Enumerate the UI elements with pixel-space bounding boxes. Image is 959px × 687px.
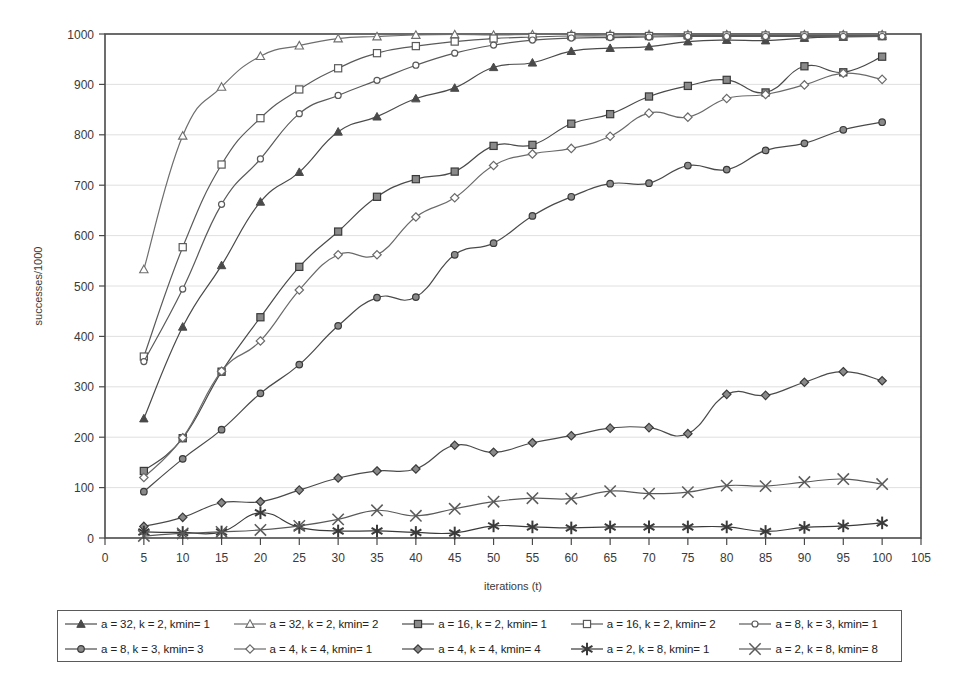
marker-filled-square — [801, 63, 808, 70]
marker-open-square — [296, 86, 303, 93]
marker-open-triangle — [140, 265, 148, 273]
marker-open-diamond — [878, 75, 886, 83]
marker-filled-triangle — [373, 112, 381, 120]
marker-filled-circle — [723, 166, 730, 173]
marker-open-square — [583, 620, 590, 627]
legend-label: a = 16, k = 2, kmin= 2 — [607, 618, 716, 630]
marker-filled-diamond — [179, 513, 187, 521]
x-tick-label: 80 — [720, 551, 734, 565]
y-tick-label: 0 — [87, 532, 94, 546]
marker-filled-circle — [374, 294, 381, 301]
legend-marker — [401, 642, 435, 656]
marker-filled-circle — [568, 194, 575, 201]
marker-filled-circle — [141, 488, 148, 495]
marker-filled-diamond — [414, 644, 422, 652]
marker-thin-cross — [876, 478, 887, 489]
series-line — [144, 122, 882, 491]
legend-marker — [233, 642, 267, 656]
marker-filled-diamond — [567, 431, 575, 439]
x-tick-label: 100 — [872, 551, 892, 565]
legend-item: a = 16, k = 2, kmin= 2 — [564, 617, 733, 631]
marker-filled-circle — [413, 294, 420, 301]
marker-open-diamond — [373, 251, 381, 259]
y-tick-label: 1000 — [67, 28, 94, 42]
y-tick-label: 900 — [74, 78, 94, 92]
marker-small-circle — [374, 77, 380, 83]
marker-filled-square — [684, 82, 691, 89]
legend-item: a = 8, k = 3, kmin= 1 — [732, 617, 901, 631]
x-axis-title: iterations (t) — [484, 580, 542, 592]
marker-filled-diamond — [606, 424, 614, 432]
marker-small-circle — [801, 33, 807, 39]
marker-small-circle — [607, 35, 613, 41]
marker-filled-diamond — [412, 465, 420, 473]
marker-filled-diamond — [334, 474, 342, 482]
marker-filled-square — [607, 111, 614, 118]
y-tick-label: 300 — [74, 380, 94, 394]
legend-label: a = 8, k = 3, kmin= 1 — [775, 618, 877, 630]
x-tick-label: 30 — [331, 551, 345, 565]
marker-filled-diamond — [723, 390, 731, 398]
legend-label: a = 16, k = 2, kmin= 1 — [438, 618, 547, 630]
marker-open-diamond — [334, 251, 342, 259]
marker-small-circle — [413, 62, 419, 68]
series-8 — [138, 507, 887, 540]
marker-small-circle — [724, 33, 730, 39]
series-line — [144, 372, 882, 527]
legend-item: a = 4, k = 4, kmin= 1 — [227, 642, 396, 656]
marker-open-square — [335, 65, 342, 72]
marker-open-diamond — [645, 109, 653, 117]
legend-marker — [64, 617, 98, 631]
marker-open-diamond — [245, 644, 253, 652]
legend-label: a = 4, k = 4, kmin= 1 — [270, 643, 372, 655]
marker-filled-diamond — [373, 467, 381, 475]
marker-filled-diamond — [295, 486, 303, 494]
marker-filled-square — [412, 176, 419, 183]
marker-filled-circle — [801, 140, 808, 147]
x-tick-label: 15 — [215, 551, 229, 565]
marker-open-diamond — [684, 113, 692, 121]
marker-filled-circle — [78, 645, 85, 652]
marker-filled-square — [490, 142, 497, 149]
marker-small-circle — [646, 34, 652, 40]
marker-small-circle — [840, 33, 846, 39]
marker-filled-triangle — [451, 84, 459, 92]
x-tick-label: 105 — [911, 551, 931, 565]
marker-open-triangle — [179, 132, 187, 140]
chart-legend: a = 32, k = 2, kmin= 1a = 32, k = 2, kmi… — [57, 610, 902, 662]
x-tick-label: 60 — [565, 551, 579, 565]
marker-filled-diamond — [839, 367, 847, 375]
legend-label: a = 2, k = 8, kmin= 8 — [775, 643, 877, 655]
series-7 — [140, 367, 887, 530]
series-1 — [140, 30, 887, 272]
marker-filled-diamond — [217, 499, 225, 507]
marker-filled-circle — [451, 251, 458, 258]
y-tick-label: 500 — [74, 280, 94, 294]
marker-open-square — [373, 50, 380, 57]
marker-filled-diamond — [645, 423, 653, 431]
marker-small-circle — [141, 359, 147, 365]
marker-filled-circle — [879, 119, 886, 126]
marker-filled-square — [257, 314, 264, 321]
marker-small-circle — [296, 111, 302, 117]
x-tick-label: 55 — [526, 551, 540, 565]
marker-filled-circle — [762, 147, 769, 154]
marker-open-square — [412, 43, 419, 50]
y-tick-label: 700 — [74, 179, 94, 193]
legend-label: a = 8, k = 3, kmin= 3 — [101, 643, 203, 655]
marker-open-square — [179, 244, 186, 251]
y-tick-label: 100 — [74, 481, 94, 495]
marker-filled-diamond — [878, 377, 886, 385]
legend-item: a = 8, k = 3, kmin= 3 — [58, 642, 227, 656]
series-line — [144, 73, 882, 477]
marker-small-circle — [529, 37, 535, 43]
marker-filled-triangle — [140, 414, 148, 422]
legend-item: a = 32, k = 2, kmin= 1 — [58, 617, 227, 631]
marker-filled-diamond — [684, 429, 692, 437]
marker-open-square — [218, 161, 225, 168]
legend-item: a = 2, k = 8, kmin= 8 — [732, 642, 901, 656]
series-line — [144, 34, 882, 269]
marker-filled-square — [529, 141, 536, 148]
series-line — [144, 36, 882, 361]
marker-open-square — [451, 38, 458, 45]
